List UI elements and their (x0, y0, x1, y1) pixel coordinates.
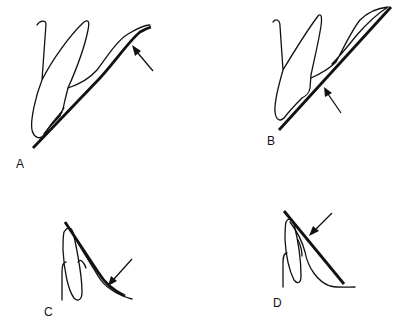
panel-b: B (267, 7, 391, 148)
diagram-figure: A B C D (0, 0, 395, 323)
straight-edge-a (33, 27, 151, 148)
arrow-c (108, 259, 132, 286)
tooth-outline-b (273, 15, 322, 120)
panel-label-d: D (273, 296, 282, 310)
panel-label-a: A (16, 157, 24, 171)
tooth-outline-c (62, 228, 86, 300)
panel-label-c: C (44, 305, 53, 319)
straight-edge-b (279, 7, 391, 130)
soft-tissue-outline-c (72, 232, 132, 299)
panel-d: D (273, 211, 355, 310)
panel-a: A (16, 21, 153, 171)
soft-tissue-outline-b (311, 7, 388, 78)
panel-c: C (44, 222, 132, 319)
arrow-d (309, 213, 332, 236)
arrow-b (324, 87, 341, 113)
arrow-a (132, 45, 153, 71)
panel-label-b: B (267, 134, 275, 148)
straight-edge-c (65, 222, 125, 296)
